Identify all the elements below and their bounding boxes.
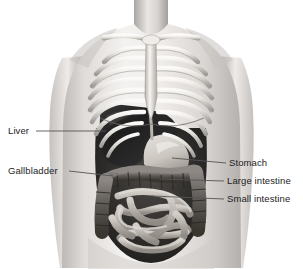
anatomy-figure: Liver Gallbladder Stomach Large intestin… — [0, 0, 303, 269]
anatomy-illustration — [0, 0, 303, 269]
label-gallbladder: Gallbladder — [8, 165, 58, 176]
label-large-intestine: Large intestine — [227, 175, 291, 186]
label-stomach: Stomach — [229, 157, 267, 168]
label-liver: Liver — [8, 125, 29, 136]
manubrium — [142, 35, 160, 45]
label-small-intestine: Small intestine — [227, 193, 290, 204]
